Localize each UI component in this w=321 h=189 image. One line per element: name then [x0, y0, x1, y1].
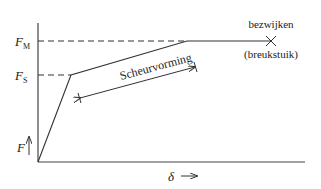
- force-displacement-diagram: FM FS F δ Scheurvorming bezwijken (breuk…: [0, 0, 321, 189]
- failure-label: bezwijken: [248, 18, 294, 30]
- failure-sublabel: (breukstuik): [244, 48, 298, 61]
- x-axis-label: δ: [168, 169, 175, 184]
- y-axis-label: F: [16, 140, 26, 155]
- fs-label: FS: [14, 68, 27, 85]
- fm-label: FM: [14, 34, 30, 51]
